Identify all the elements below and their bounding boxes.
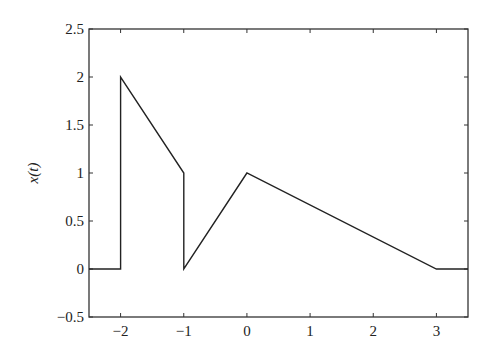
x-tick-label: 1 — [306, 323, 314, 339]
y-tick-label: 0.5 — [65, 213, 84, 229]
y-tick-label: 0 — [77, 261, 85, 277]
y-tick-label: 2.5 — [65, 21, 84, 37]
line-chart: −2−10123 −0.500.511.522.5 x(t) — [0, 0, 480, 347]
y-tick-label: 1.5 — [65, 117, 84, 133]
data-series — [89, 77, 468, 269]
series-line — [89, 77, 468, 269]
plot-frame — [89, 29, 468, 317]
y-axis-label: x(t) — [25, 163, 42, 185]
y-axis-ticks: −0.500.511.522.5 — [57, 21, 468, 325]
axes-box — [89, 29, 468, 317]
x-tick-label: −2 — [113, 323, 129, 339]
x-tick-label: 3 — [433, 323, 441, 339]
x-axis-ticks: −2−10123 — [113, 29, 441, 339]
y-tick-label: 1 — [77, 165, 85, 181]
y-tick-label: −0.5 — [57, 309, 84, 325]
x-tick-label: 0 — [243, 323, 251, 339]
y-tick-label: 2 — [77, 69, 85, 85]
x-tick-label: 2 — [370, 323, 378, 339]
x-tick-label: −1 — [176, 323, 192, 339]
